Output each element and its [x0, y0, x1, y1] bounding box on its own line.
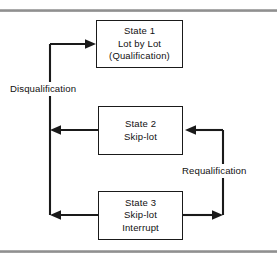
- state-1-line-3: (Qualification): [109, 50, 170, 62]
- arrowhead-state-3-to-right-spine: [212, 210, 223, 220]
- state-2-line-2: Skip-lot: [124, 131, 157, 143]
- transition-label-requalification: Requalification: [180, 164, 248, 178]
- state-2-line-1: State 2: [125, 118, 156, 130]
- arrowhead-into-state-1: [85, 39, 96, 49]
- state-box-state-3: State 3 Skip-lot Interrupt: [98, 191, 183, 240]
- arrowhead-state-3-to-left-spine: [50, 210, 61, 220]
- transition-label-disqualification: Disqualification: [8, 82, 78, 96]
- state-1-line-2: Lot by Lot: [118, 38, 161, 50]
- state-box-state-1: State 1 Lot by Lot (Qualification): [96, 20, 183, 68]
- state-3-line-2: Skip-lot: [124, 209, 157, 221]
- state-3-line-1: State 3: [125, 197, 156, 209]
- arrowhead-state-2-to-left-spine: [50, 125, 61, 135]
- state-box-state-2: State 2 Skip-lot: [98, 106, 183, 155]
- state-1-line-1: State 1: [124, 25, 155, 37]
- arrowhead-into-state-2: [185, 125, 196, 135]
- state-3-line-3: Interrupt: [122, 222, 159, 234]
- state-transition-diagram: State 1 Lot by Lot (Qualification) State…: [0, 0, 277, 259]
